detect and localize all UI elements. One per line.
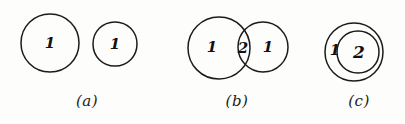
panel-c-label-annulus: 1 — [330, 41, 340, 59]
panel-b-caption: (b) — [217, 92, 257, 110]
figure-root: Circle configurations: disjoint, overlap… — [0, 0, 405, 124]
panel-b-label-right-only: 1 — [263, 38, 273, 56]
panel-b-label-intersection: 2 — [238, 39, 248, 57]
panel-a: 1 1 (a) — [0, 0, 150, 124]
panel-a-label-left: 1 — [45, 34, 55, 52]
panel-b-label-left-only: 1 — [207, 38, 217, 56]
panel-b: 1 2 1 (b) — [170, 0, 300, 124]
panel-c-caption: (c) — [339, 92, 379, 110]
panel-a-label-right: 1 — [110, 35, 120, 53]
panel-c-label-inner: 2 — [353, 42, 365, 62]
panel-a-caption: (a) — [62, 92, 112, 110]
panel-c: 1 2 (c) — [310, 0, 405, 124]
